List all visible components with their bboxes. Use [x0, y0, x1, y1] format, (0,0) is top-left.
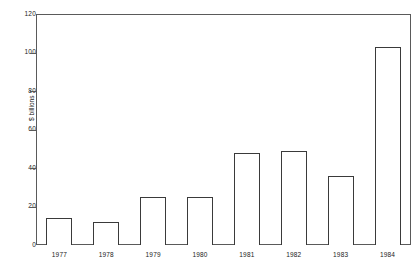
bar	[140, 197, 166, 245]
bar	[328, 176, 354, 245]
x-axis-tick-label: 1980	[192, 252, 207, 259]
bar	[187, 197, 213, 245]
x-axis-tick-label: 1984	[380, 252, 395, 259]
x-axis-tick-label: 1978	[99, 252, 114, 259]
x-axis-tick-label: 1983	[333, 252, 348, 259]
x-axis-tick-label: 1979	[146, 252, 161, 259]
x-axis-tick-label: 1977	[52, 252, 67, 259]
x-axis-tick-label: 1981	[239, 252, 254, 259]
bar	[281, 151, 307, 245]
bar	[46, 218, 72, 245]
bar	[234, 153, 260, 245]
x-axis-tick-label: 1982	[286, 252, 301, 259]
bar	[375, 47, 401, 245]
plot-area	[36, 14, 411, 245]
bar	[93, 222, 119, 245]
bar-chart: $ billions 020406080100120 1977197819791…	[0, 0, 420, 274]
